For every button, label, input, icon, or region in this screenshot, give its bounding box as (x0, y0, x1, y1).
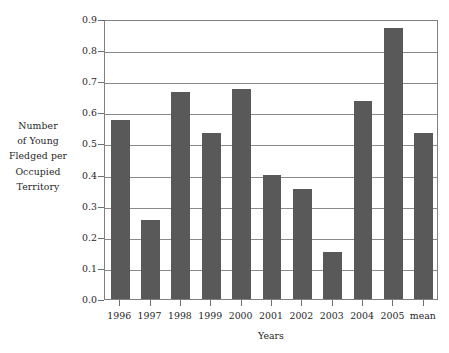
x-tick-mark (392, 300, 393, 306)
y-tick-label: 0.8 (67, 46, 97, 55)
x-tick-mark (241, 300, 242, 306)
y-axis-title-line-3: Fledged per (2, 148, 74, 163)
y-tick-label: 0.2 (67, 233, 97, 242)
bar (293, 189, 312, 299)
x-tick-mark (180, 300, 181, 306)
x-tick-mark (423, 300, 424, 306)
y-tick-label: 0.0 (67, 295, 97, 304)
x-tick-mark (332, 300, 333, 306)
bar (141, 220, 160, 299)
x-tick-label: mean (403, 310, 443, 321)
bar (263, 175, 282, 299)
bar (171, 92, 190, 299)
plot-area (104, 20, 438, 300)
x-axis-title: Years (104, 330, 438, 341)
bar (202, 133, 221, 299)
y-tick-label: 0.5 (67, 139, 97, 148)
x-tick-mark (271, 300, 272, 306)
y-tick-mark (98, 300, 104, 301)
bar (111, 120, 130, 299)
bar (384, 28, 403, 299)
x-tick-mark (362, 300, 363, 306)
x-tick-mark (119, 300, 120, 306)
y-tick-label: 0.4 (67, 171, 97, 180)
x-tick-mark (210, 300, 211, 306)
y-tick-label: 0.7 (67, 77, 97, 86)
x-tick-mark (301, 300, 302, 306)
y-axis-title: Number of Young Fledged per Occupied Ter… (2, 118, 74, 194)
y-tick-label: 0.3 (67, 202, 97, 211)
y-axis-title-line-4: Occupied (2, 164, 74, 179)
y-axis-title-line-5: Territory (2, 179, 74, 194)
y-tick-label: 0.9 (67, 15, 97, 24)
bar (323, 252, 342, 299)
y-axis-title-line-2: of Young (2, 133, 74, 148)
y-tick-label: 0.6 (67, 108, 97, 117)
y-tick-label: 0.1 (67, 264, 97, 273)
bar-chart-figure: Number of Young Fledged per Occupied Ter… (0, 0, 449, 353)
y-axis-title-line-1: Number (2, 118, 74, 133)
bar (354, 101, 373, 299)
bar (414, 133, 433, 299)
x-tick-mark (150, 300, 151, 306)
bar-series (105, 21, 437, 299)
bar (232, 89, 251, 299)
